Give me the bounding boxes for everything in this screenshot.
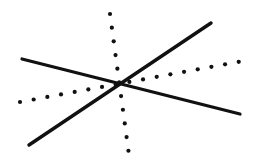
dotted-line-shallow-dot (45, 95, 49, 99)
dotted-line-steep-dot (110, 26, 114, 30)
dotted-line-shallow-dot (155, 75, 159, 79)
dotted-line-shallow-dot (209, 65, 213, 69)
dotted-line-shallow-dot (100, 85, 104, 89)
dotted-line-shallow-dot (182, 70, 186, 74)
dotted-line-shallow-dot (59, 92, 63, 96)
dotted-line-shallow-dot (32, 97, 36, 101)
dotted-line-shallow-dot (196, 67, 200, 71)
dotted-line-shallow-dot (127, 80, 131, 84)
dotted-line-steep-dot (112, 39, 116, 43)
dotted-line-steep-dot (113, 53, 117, 57)
dotted-line-steep-dot (123, 121, 127, 125)
dotted-line-shallow-dot (73, 90, 77, 94)
dotted-line-steep-dot (124, 135, 128, 139)
dotted-line-shallow-dot (18, 100, 22, 104)
dotted-line-shallow-dot (114, 82, 118, 86)
dotted-line-steep-dot (119, 94, 123, 98)
dotted-line-steep-dot (117, 80, 121, 84)
dotted-line-shallow-dot (237, 60, 241, 64)
dotted-line-steep-dot (126, 149, 130, 153)
figure-canvas (0, 0, 255, 162)
dotted-line-steep-dot (108, 12, 112, 16)
dotted-line-shallow-dot (223, 62, 227, 66)
dotted-line-shallow-dot (168, 72, 172, 76)
dotted-line-shallow-dot (141, 77, 145, 81)
dotted-line-steep-dot (121, 108, 125, 112)
dotted-line-shallow-dot (86, 87, 90, 91)
line-drawing-svg (0, 0, 255, 162)
dotted-line-steep-dot (115, 67, 119, 71)
